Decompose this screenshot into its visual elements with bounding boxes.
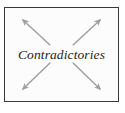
arrow-up-right — [73, 20, 101, 45]
arrow-down-right — [73, 63, 101, 89]
diagram-box: Contradictories — [4, 7, 119, 102]
figure-root: Contradictories — [0, 0, 125, 113]
arrow-up-left — [23, 20, 51, 45]
center-label: Contradictories — [5, 48, 118, 62]
arrow-down-left — [23, 63, 51, 89]
